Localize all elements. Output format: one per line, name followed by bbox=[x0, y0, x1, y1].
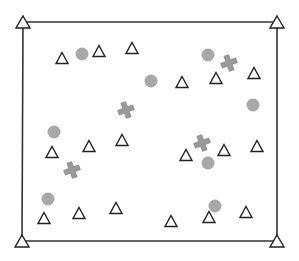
circle-marker bbox=[202, 49, 215, 62]
triangle-marker bbox=[116, 135, 128, 146]
circles-layer bbox=[42, 48, 260, 213]
triangle-marker bbox=[248, 68, 260, 79]
cross-marker bbox=[219, 53, 240, 74]
cross-marker bbox=[62, 160, 83, 181]
circle-marker bbox=[76, 48, 89, 61]
triangle-marker bbox=[38, 213, 50, 224]
triangle-marker bbox=[218, 145, 230, 156]
triangle-marker bbox=[240, 207, 252, 218]
triangle-marker bbox=[180, 150, 192, 161]
triangle-marker bbox=[73, 208, 85, 219]
triangle-marker bbox=[56, 53, 68, 64]
circle-marker bbox=[42, 193, 55, 206]
triangle-marker bbox=[46, 147, 58, 158]
circle-marker bbox=[247, 99, 260, 112]
triangle-marker bbox=[251, 141, 263, 152]
triangle-marker bbox=[203, 212, 215, 223]
triangle-marker bbox=[165, 216, 177, 227]
triangle-marker bbox=[176, 77, 188, 88]
circle-marker bbox=[48, 126, 61, 139]
triangle-marker bbox=[93, 46, 105, 57]
triangle-marker bbox=[126, 43, 138, 54]
triangle-marker bbox=[83, 141, 95, 152]
cross-marker bbox=[192, 133, 213, 154]
cross-marker bbox=[116, 100, 137, 121]
circle-marker bbox=[202, 157, 215, 170]
circle-marker bbox=[209, 200, 222, 213]
diagram-canvas bbox=[0, 0, 299, 261]
triangle-marker bbox=[110, 203, 122, 214]
circle-marker bbox=[145, 75, 158, 88]
triangle-marker bbox=[210, 73, 222, 84]
